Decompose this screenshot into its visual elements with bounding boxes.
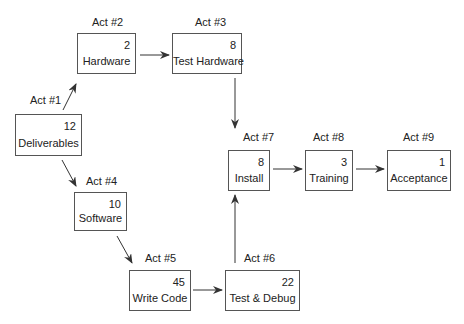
activity-name: Install bbox=[229, 172, 269, 184]
activity-name: Deliverables bbox=[16, 137, 81, 149]
node-write-code: 45 Write Code bbox=[129, 270, 191, 311]
edge-act1-act4-line bbox=[62, 160, 76, 186]
edge-act1-act4 bbox=[61, 187, 76, 190]
activity-name: Test & Debug bbox=[226, 292, 299, 304]
edge-act4-act5 bbox=[117, 236, 132, 263]
act-label-8: Act #8 bbox=[313, 131, 344, 143]
act-label-5: Act #5 bbox=[145, 252, 176, 264]
activity-name: Write Code bbox=[130, 292, 190, 304]
activity-name: Software bbox=[75, 212, 126, 224]
activity-name: Hardware bbox=[78, 55, 135, 67]
duration: 2 bbox=[124, 39, 130, 51]
act-label-3: Act #3 bbox=[195, 16, 226, 28]
duration: 1 bbox=[439, 156, 445, 168]
duration: 22 bbox=[282, 276, 294, 288]
act-label-7: Act #7 bbox=[243, 131, 274, 143]
act-label-1: Act #1 bbox=[30, 94, 61, 106]
act-label-9: Act #9 bbox=[403, 131, 434, 143]
duration: 12 bbox=[64, 120, 76, 132]
node-install: 8 Install bbox=[228, 150, 270, 191]
activity-name: Training bbox=[306, 172, 352, 184]
edge-act1-act2 bbox=[63, 84, 76, 110]
act-label-6: Act #6 bbox=[244, 252, 275, 264]
node-test-hardware: 8 Test Hardware bbox=[172, 33, 242, 74]
node-test-debug: 22 Test & Debug bbox=[225, 270, 300, 311]
activity-name: Test Hardware bbox=[173, 55, 241, 67]
node-hardware: 2 Hardware bbox=[77, 33, 136, 74]
node-software: 10 Software bbox=[74, 192, 127, 231]
act-label-4: Act #4 bbox=[86, 175, 117, 187]
activity-name: Acceptance bbox=[388, 172, 450, 184]
act-label-2: Act #2 bbox=[92, 16, 123, 28]
duration: 10 bbox=[109, 198, 121, 210]
node-deliverables: 12 Deliverables bbox=[15, 114, 82, 156]
duration: 3 bbox=[341, 156, 347, 168]
duration: 8 bbox=[258, 156, 264, 168]
node-training: 3 Training bbox=[305, 150, 353, 191]
node-acceptance: 1 Acceptance bbox=[387, 150, 451, 191]
duration: 8 bbox=[230, 39, 236, 51]
duration: 45 bbox=[173, 276, 185, 288]
activity-network-diagram: Act #1 12 Deliverables Act #2 2 Hardware… bbox=[0, 0, 464, 324]
